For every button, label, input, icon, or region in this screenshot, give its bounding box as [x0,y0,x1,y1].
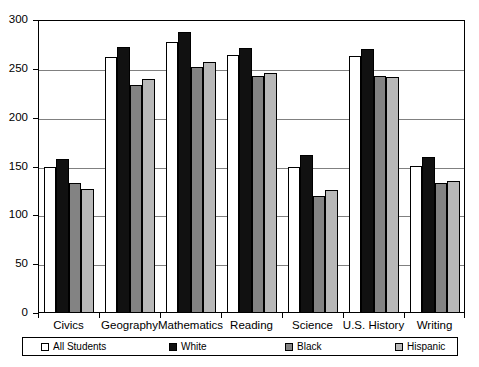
legend-swatch-icon [169,343,177,351]
y-tick-label: 250 [9,63,28,75]
x-axis-category-label: Geography [101,319,158,332]
x-axis-labels: CivicsGeographyMathematicsReadingScience… [38,319,465,335]
bar-group [38,20,99,313]
x-axis-category-label: Mathematics [158,319,223,332]
bar-chart: 050100150200250300 CivicsGeographyMathem… [0,0,479,367]
bar [361,49,374,313]
x-tick-mark [282,313,283,318]
legend-label: Black [297,341,321,352]
chart-legend: All StudentsWhiteBlackHispanic [22,337,458,356]
bar [252,76,265,313]
bar [313,196,326,313]
bar [117,47,130,313]
bar-group [343,20,404,313]
legend-swatch-icon [285,343,293,351]
bar [410,166,423,313]
x-tick-mark [221,313,222,318]
bar [447,181,460,313]
y-axis: 050100150200250300 [0,0,38,367]
x-axis-category-label: Science [292,319,333,332]
legend-swatch-icon [395,343,403,351]
x-tick-mark [343,313,344,318]
bar [130,85,143,313]
bar [386,77,399,313]
legend-label: White [181,341,207,352]
x-tick-mark [404,313,405,318]
bar [203,62,216,313]
bar-group [221,20,282,313]
y-tick-label: 300 [9,14,28,26]
x-axis-category-label: Civics [53,319,84,332]
legend-entry[interactable]: Black [285,341,321,352]
bar [422,157,435,313]
bar [56,159,69,313]
bar [178,32,191,313]
bar [142,79,155,313]
legend-entry[interactable]: White [169,341,207,352]
legend-entry[interactable]: Hispanic [395,341,445,352]
bar-group [282,20,343,313]
bar [264,73,277,313]
bar [288,167,301,314]
x-tick-mark [38,313,39,318]
bar [69,183,82,313]
y-tick-label: 200 [9,112,28,124]
legend-label: All Students [53,341,106,352]
bar [239,48,252,313]
bar [227,55,240,313]
y-tick-label: 100 [9,209,28,221]
bar [105,57,118,313]
bar [374,76,387,313]
x-axis-category-label: Writing [417,319,453,332]
bar [191,67,204,313]
bar [349,56,362,313]
x-axis-category-label: U.S. History [343,319,404,332]
legend-entry[interactable]: All Students [41,341,106,352]
legend-label: Hispanic [407,341,445,352]
x-axis-category-label: Reading [230,319,273,332]
bar [435,183,448,313]
bar-group [160,20,221,313]
x-tick-mark [99,313,100,318]
y-tick-label: 150 [9,161,28,173]
bar [166,42,179,314]
x-tick-mark [160,313,161,318]
y-tick-label: 50 [15,258,28,270]
x-tick-mark [464,313,465,318]
bar-group [99,20,160,313]
bar [44,167,57,314]
bar [325,190,338,313]
legend-swatch-icon [41,343,49,351]
bar [81,189,94,313]
y-tick-label: 0 [22,307,28,319]
bar-group [404,20,465,313]
bar [300,155,313,313]
bars-layer [38,20,465,313]
